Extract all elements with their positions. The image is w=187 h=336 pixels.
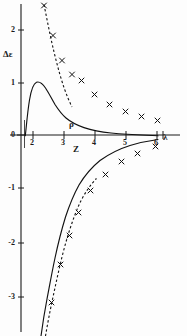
data-marker [103, 172, 108, 177]
data-marker [42, 3, 47, 8]
data-marker [119, 159, 124, 164]
upper-data-points [42, 3, 161, 123]
data-marker [135, 151, 140, 156]
figure-container: 2 1 0 -1 -2 -3 Δε 2 3 4 5 6 ρ Z λ [0, 0, 187, 336]
data-marker [76, 210, 81, 215]
x-axis-label-rho: ρ [69, 120, 74, 129]
lower-solid-curve [41, 140, 158, 336]
plot-canvas [0, 0, 187, 336]
y-axis-label: Δε [3, 50, 13, 59]
y-tick-label-2: 2 [2, 26, 15, 34]
y-tick-label-1: 1 [2, 79, 15, 87]
y-tick-label-minus-3: -3 [0, 293, 15, 301]
data-marker [88, 188, 93, 193]
upper-solid-curve [25, 82, 158, 136]
data-marker [139, 114, 144, 119]
data-marker [92, 92, 97, 97]
y-tick-label-0: 0 [2, 131, 15, 139]
data-marker [107, 102, 112, 107]
x-tick-label-4: 4 [92, 139, 96, 147]
data-marker [51, 33, 56, 38]
x-tick-label-6: 6 [154, 139, 158, 147]
data-marker [155, 118, 160, 123]
data-marker [123, 109, 128, 114]
x-tick-label-3: 3 [61, 139, 65, 147]
data-marker [70, 72, 75, 77]
x-axis-label-z: Z [73, 145, 79, 154]
x-axis-label-lambda: λ [163, 133, 167, 142]
lower-data-points [49, 144, 158, 305]
y-tick-label-minus-2: -2 [0, 239, 15, 247]
data-marker [79, 78, 84, 83]
x-tick-label-2: 2 [30, 139, 34, 147]
y-tick-label-minus-1: -1 [0, 184, 15, 192]
x-tick-label-5: 5 [123, 139, 127, 147]
data-marker [60, 58, 65, 63]
